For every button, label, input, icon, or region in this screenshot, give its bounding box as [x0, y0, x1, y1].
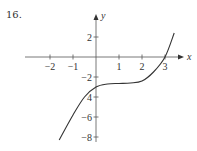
cubic-function-graph: xy −2−11232−24−6−8: [0, 0, 197, 151]
x-tick-label: −2: [45, 61, 56, 72]
function-curve: [59, 33, 174, 140]
axis-ticks: [50, 37, 165, 137]
x-axis-arrow-icon: [178, 55, 184, 60]
y-tick-label: 2: [87, 32, 92, 43]
x-tick-label: −1: [68, 61, 79, 72]
tick-labels: −2−11232−24−6−8: [45, 32, 168, 143]
x-tick-label: 3: [163, 61, 168, 72]
axes: xy: [25, 10, 192, 142]
y-tick-label: −6: [81, 112, 92, 123]
x-tick-label: 1: [117, 61, 122, 72]
x-tick-label: 2: [140, 61, 145, 72]
y-tick-label: −8: [81, 132, 92, 143]
y-axis-label: y: [100, 10, 106, 21]
x-axis-label: x: [186, 51, 192, 62]
y-axis-arrow-icon: [94, 14, 99, 20]
y-tick-label: −2: [81, 72, 92, 83]
